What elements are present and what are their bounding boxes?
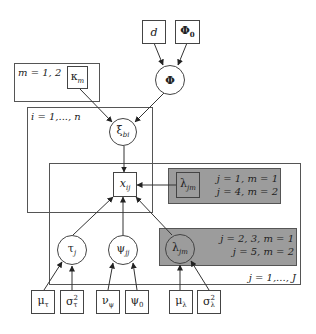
- edge-nu-psi-psi: [108, 263, 113, 290]
- plate-i-label: i = 1,..., n: [31, 111, 81, 123]
- node-xi-label: ξbi: [117, 124, 130, 139]
- node-x-label: xij: [120, 177, 131, 192]
- edge-psi0-psi: [133, 263, 137, 290]
- node-tau-label: τj: [68, 242, 76, 257]
- node-sigma-lambda-label: σ2λ: [203, 295, 215, 309]
- node-lambda-free: λjm: [165, 234, 195, 264]
- edge-mu-tau-tau: [44, 262, 62, 290]
- node-phi0-label: Φ0: [180, 24, 194, 39]
- node-psi0-label: ψ0: [130, 294, 143, 309]
- node-d-label: d: [150, 26, 157, 39]
- node-x: xij: [113, 172, 137, 197]
- node-psi0: ψ0: [125, 290, 149, 314]
- node-sigma-tau: σ2τ: [60, 290, 84, 314]
- edge-d-phi: [154, 43, 163, 65]
- node-phi0: Φ0: [175, 20, 200, 44]
- node-tau: τj: [57, 235, 87, 265]
- node-lambda-fixed: λjm: [176, 172, 200, 198]
- node-d: d: [142, 20, 166, 44]
- plate-m-label: m = 1, 2: [18, 67, 61, 79]
- edge-lambda-free-x: [136, 197, 172, 235]
- node-phi-label: Φ: [165, 74, 175, 87]
- node-psi-label: ψjj: [117, 242, 130, 257]
- edge-phi-xi: [135, 93, 164, 122]
- shaded-upper-label-2: j = 4, m = 2: [200, 186, 278, 198]
- node-nu-psi: νψ: [96, 290, 120, 314]
- shaded-upper-label-1: j = 1, m = 1: [200, 173, 278, 185]
- node-phi: Φ: [155, 65, 185, 95]
- node-kappa: κm: [67, 66, 88, 89]
- node-sigma-tau-label: σ2τ: [66, 295, 78, 309]
- node-mu-lambda-label: μλ: [175, 294, 187, 309]
- node-lambda-free-label: λjm: [172, 241, 188, 256]
- plate-j-label: j = 1,..., J: [246, 272, 296, 284]
- node-mu-tau-label: μτ: [37, 294, 48, 309]
- node-xi: ξbi: [109, 118, 137, 146]
- node-kappa-label: κm: [71, 70, 85, 85]
- shaded-lower-label-1: j = 2, 3, m = 1: [200, 233, 294, 245]
- node-psi: ψjj: [108, 235, 138, 265]
- shaded-lower-label-2: j = 5, m = 2: [200, 246, 294, 258]
- node-mu-lambda: μλ: [169, 290, 193, 314]
- edge-tau-x: [73, 197, 113, 235]
- node-sigma-lambda: σ2λ: [197, 290, 221, 314]
- node-lambda-fixed-label: λjm: [180, 177, 196, 192]
- node-nu-psi-label: νψ: [102, 294, 114, 309]
- edge-phi0-phi: [178, 43, 187, 65]
- node-mu-tau: μτ: [31, 290, 55, 314]
- edge-sigma-lambda-lambda: [191, 261, 209, 290]
- edge-kappa-xi: [80, 89, 112, 122]
